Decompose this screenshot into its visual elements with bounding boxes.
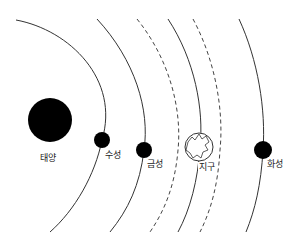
sun-label: 태양 <box>39 153 57 163</box>
earth-label: 지구 <box>198 162 216 172</box>
venus-icon <box>136 142 152 158</box>
mars-icon <box>254 141 272 159</box>
solar-system-diagram <box>0 0 300 241</box>
mars-label: 화성 <box>266 159 284 169</box>
orbit-dashed-outer <box>193 19 221 232</box>
mercury-icon <box>94 132 110 148</box>
sun-icon <box>28 98 72 142</box>
mercury-label: 수성 <box>104 150 122 160</box>
venus-label: 금성 <box>146 159 164 169</box>
orbit-mars <box>239 19 264 232</box>
orbit-dashed-inner <box>137 19 179 232</box>
orbit-venus <box>97 19 145 232</box>
earth-icon <box>185 133 213 161</box>
orbit-earth <box>168 19 201 232</box>
